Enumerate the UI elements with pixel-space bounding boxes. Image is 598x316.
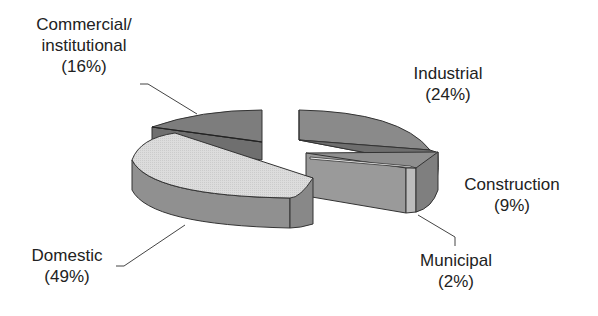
label-commercial: Commercial/ institutional (16%)	[24, 14, 144, 77]
label-construction: Construction (9%)	[452, 174, 572, 216]
label-construction-pct: (9%)	[452, 195, 572, 216]
label-domestic-pct: (49%)	[22, 266, 112, 287]
leader-commercial	[140, 84, 197, 114]
label-construction-line1: Construction	[452, 174, 572, 195]
leader-domestic	[116, 225, 185, 266]
leader-municipal	[418, 215, 455, 246]
label-municipal-line1: Municipal	[406, 250, 506, 271]
label-municipal: Municipal (2%)	[406, 250, 506, 292]
label-industrial: Industrial (24%)	[398, 63, 498, 105]
label-industrial-line1: Industrial	[398, 63, 498, 84]
label-domestic: Domestic (49%)	[22, 245, 112, 287]
label-municipal-pct: (2%)	[406, 271, 506, 292]
label-commercial-line2: institutional	[24, 35, 144, 56]
label-domestic-line1: Domestic	[22, 245, 112, 266]
label-commercial-line1: Commercial/	[24, 14, 144, 35]
slice-construction	[306, 152, 438, 213]
label-commercial-pct: (16%)	[24, 56, 144, 77]
label-industrial-pct: (24%)	[398, 84, 498, 105]
